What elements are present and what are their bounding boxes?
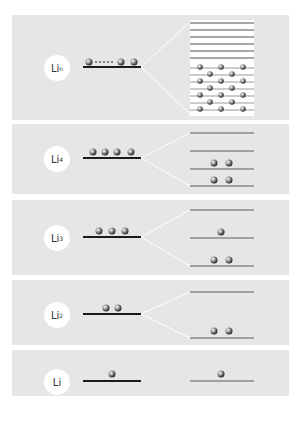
label-li4: Li4 [44, 146, 70, 172]
label-li3: Li3 [44, 225, 70, 251]
label-li1: Li [44, 369, 70, 395]
label-li2: Li2 [44, 302, 70, 328]
label-lin: Lin [44, 55, 70, 81]
